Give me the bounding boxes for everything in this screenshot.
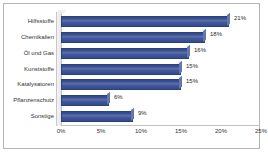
bar-value-label: 15% xyxy=(186,78,198,84)
x-tick-label: 25% xyxy=(255,128,265,134)
bar[interactable] xyxy=(61,48,189,59)
bar-row: 6% xyxy=(61,95,261,106)
x-tick-label: 10% xyxy=(135,128,147,134)
bar-value-label: 21% xyxy=(234,15,246,21)
category-labels: HilfsstoffeChemikalienÖl und GasKunststo… xyxy=(6,14,54,124)
bar[interactable] xyxy=(61,64,181,75)
bar-row: 9% xyxy=(61,111,261,122)
bar-3d-cap xyxy=(131,107,134,120)
bar[interactable] xyxy=(61,79,181,90)
bar-row: 18% xyxy=(61,32,261,43)
category-label: Öl und Gas xyxy=(6,50,54,56)
bar-3d-cap xyxy=(187,44,190,57)
bar-value-label: 6% xyxy=(114,94,123,100)
bar-row: 15% xyxy=(61,64,261,75)
bar-3d-cap xyxy=(179,76,182,89)
bar-row: 15% xyxy=(61,79,261,90)
bar-row: 16% xyxy=(61,48,261,59)
x-tick-label: 5% xyxy=(97,128,106,134)
bar-value-label: 9% xyxy=(138,110,147,116)
category-label: Sonstige xyxy=(6,113,54,119)
category-label: Pflanzenschutz xyxy=(6,97,54,103)
x-axis-ticks: 0%5%10%15%20%25% xyxy=(61,128,261,140)
bar-value-label: 18% xyxy=(210,31,222,37)
category-label: Kunststoffe xyxy=(6,66,54,72)
bar-3d-cap xyxy=(227,13,230,26)
chart-frame: HilfsstoffeChemikalienÖl und GasKunststo… xyxy=(3,3,260,149)
bar[interactable] xyxy=(61,16,229,27)
bar-value-label: 15% xyxy=(186,63,198,69)
x-tick-label: 15% xyxy=(175,128,187,134)
category-label: Hilfsstoffe xyxy=(6,18,54,24)
x-tick-label: 20% xyxy=(215,128,227,134)
bar-row: 21% xyxy=(61,16,261,27)
bar-3d-cap xyxy=(179,60,182,73)
bar-3d-cap xyxy=(107,92,110,105)
category-label: Chemikalien xyxy=(6,34,54,40)
x-tick-label: 0% xyxy=(57,128,66,134)
x-axis-line xyxy=(61,125,260,126)
bar[interactable] xyxy=(61,32,205,43)
plot-area: 21%18%16%15%15%6%9% xyxy=(61,14,261,124)
bar-value-label: 16% xyxy=(194,47,206,53)
bar[interactable] xyxy=(61,95,109,106)
bar-3d-cap xyxy=(203,29,206,42)
category-label: Katalysatoren xyxy=(6,81,54,87)
bar[interactable] xyxy=(61,111,133,122)
